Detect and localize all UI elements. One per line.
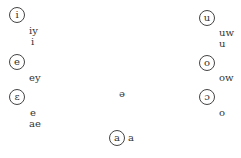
vowel-u-label-1: uw [219,28,234,38]
vowel-o-label-1: ow [219,73,234,83]
vowel-open-e-circle: ɛ [9,89,25,105]
vowel-open-o-circle: ɔ [199,89,215,105]
vowel-e-label-1: ey [29,73,41,83]
vowel-open-e-label-2: ae [29,119,41,129]
vowel-i-label-2: i [31,37,34,47]
vowel-open-e-label-1: e [30,108,36,118]
vowel-i-circle: i [9,7,25,23]
vowel-open-o-label-1: o [219,108,225,118]
vowel-u-label-2: u [219,39,225,49]
vowel-o-circle: o [199,55,215,71]
vowel-e-circle: e [9,54,25,70]
vowel-i-label-1: iy [29,26,38,36]
vowel-a-circle: a [109,130,125,146]
vowel-schwa: ə [119,89,125,99]
vowel-a-label-1: a [128,133,134,143]
vowel-u-circle: u [199,10,215,26]
